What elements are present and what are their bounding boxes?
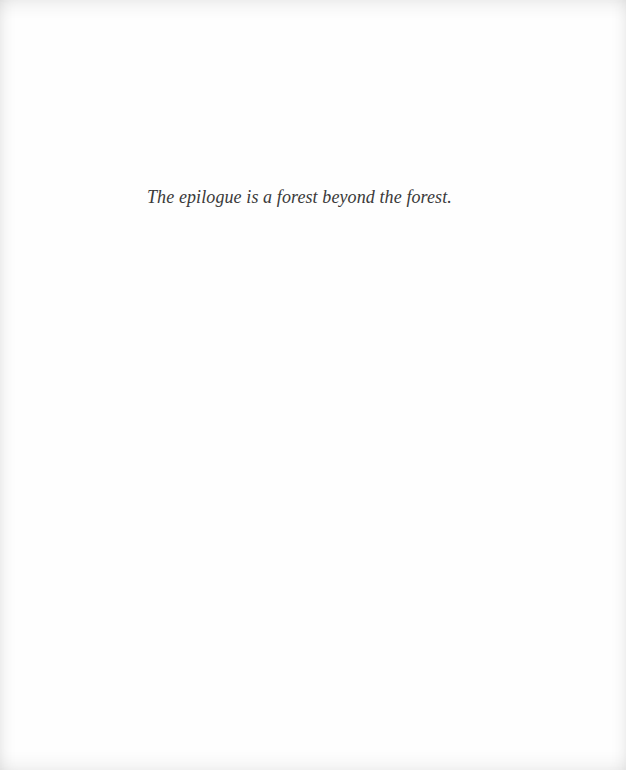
epigraph-text: The epilogue is a forest beyond the fore…: [147, 186, 452, 208]
book-page: The epilogue is a forest beyond the fore…: [0, 0, 626, 770]
